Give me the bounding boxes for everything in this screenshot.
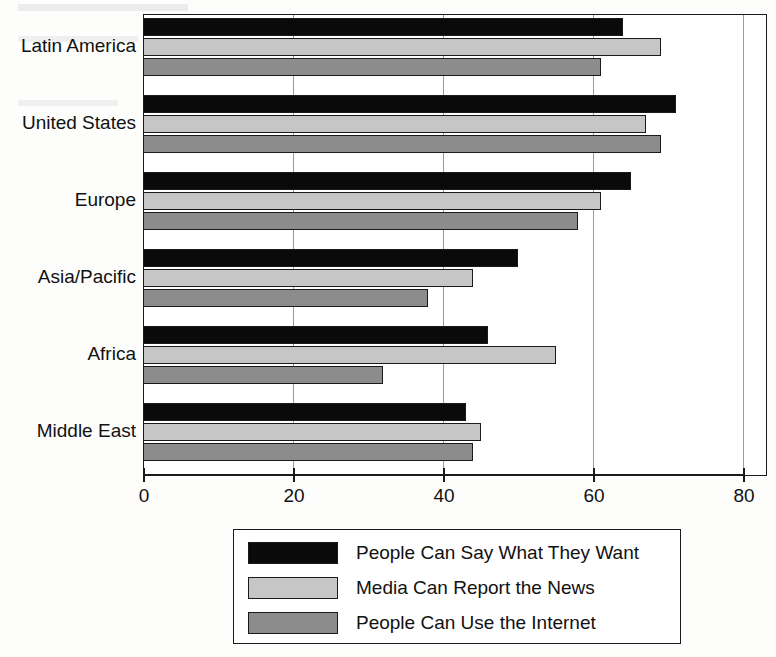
page-bleed-artifact bbox=[18, 100, 118, 106]
x-axis-tick-label: 0 bbox=[139, 485, 150, 507]
x-axis-tick bbox=[743, 468, 745, 482]
gridline bbox=[593, 15, 594, 475]
bar-asia-pacific-series-1 bbox=[143, 269, 473, 287]
bar-united-states-series-0 bbox=[143, 95, 676, 113]
legend-item: People Can Say What They Want bbox=[248, 540, 639, 566]
bar-europe-series-1 bbox=[143, 192, 601, 210]
bar-asia-pacific-series-0 bbox=[143, 249, 518, 267]
legend-label-use-internet: People Can Use the Internet bbox=[356, 612, 596, 634]
page-bleed-artifact bbox=[18, 4, 188, 11]
legend-item: Media Can Report the News bbox=[248, 575, 595, 601]
legend-swatch-say-what-they-want bbox=[248, 542, 338, 564]
bar-middle-east-series-2 bbox=[143, 443, 473, 461]
category-label-united-states: United States bbox=[0, 112, 136, 134]
x-axis-tick-label: 80 bbox=[733, 485, 754, 507]
legend-item: People Can Use the Internet bbox=[248, 610, 596, 636]
x-axis-tick-label: 40 bbox=[433, 485, 454, 507]
bar-latin-america-series-0 bbox=[143, 18, 623, 36]
bar-middle-east-series-1 bbox=[143, 423, 481, 441]
bar-united-states-series-2 bbox=[143, 135, 661, 153]
category-label-europe: Europe bbox=[0, 189, 136, 211]
x-axis-tick-label: 20 bbox=[283, 485, 304, 507]
category-label-latin-america: Latin America bbox=[0, 35, 136, 57]
bar-africa-series-0 bbox=[143, 326, 488, 344]
legend-label-say-what-they-want: People Can Say What They Want bbox=[356, 542, 639, 564]
bar-africa-series-2 bbox=[143, 366, 383, 384]
chart-page: 020406080Latin AmericaUnited StatesEurop… bbox=[0, 0, 776, 657]
legend-label-media-report-news: Media Can Report the News bbox=[356, 577, 595, 599]
category-label-middle-east: Middle East bbox=[0, 420, 136, 442]
bar-united-states-series-1 bbox=[143, 115, 646, 133]
category-label-asia-pacific: Asia/Pacific bbox=[0, 266, 136, 288]
bar-middle-east-series-0 bbox=[143, 403, 466, 421]
bar-asia-pacific-series-2 bbox=[143, 289, 428, 307]
legend-swatch-use-internet bbox=[248, 612, 338, 634]
bar-latin-america-series-1 bbox=[143, 38, 661, 56]
legend-swatch-media-report-news bbox=[248, 577, 338, 599]
x-axis-line bbox=[143, 474, 743, 476]
x-axis-tick-label: 60 bbox=[583, 485, 604, 507]
bar-latin-america-series-2 bbox=[143, 58, 601, 76]
category-label-africa: Africa bbox=[0, 343, 136, 365]
bar-africa-series-1 bbox=[143, 346, 556, 364]
gridline bbox=[743, 15, 744, 475]
chart-legend: People Can Say What They Want Media Can … bbox=[233, 529, 681, 644]
bar-europe-series-0 bbox=[143, 172, 631, 190]
bar-europe-series-2 bbox=[143, 212, 578, 230]
